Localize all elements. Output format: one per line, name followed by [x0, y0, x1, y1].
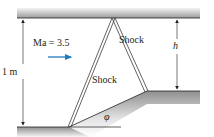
reflected-shock: [112, 18, 148, 92]
channel-height-label: 1 m: [2, 67, 17, 77]
top-wall: [17, 8, 200, 18]
mach-number-label: Ma = 3.5: [33, 38, 69, 48]
step-height-label: h: [173, 41, 178, 51]
reflected-shock-label: Shock: [119, 35, 144, 45]
incident-shock-label: Shock: [92, 75, 117, 85]
ramp-angle-label: φ: [104, 112, 110, 122]
